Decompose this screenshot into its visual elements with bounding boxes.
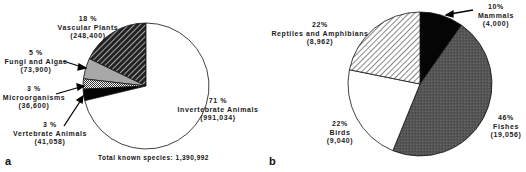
label-vertebrate-animals: 3 % Vertebrate Animals (41,058)	[10, 121, 90, 147]
panel-letter-b: b	[269, 155, 276, 167]
label-reptiles-amphibians: 22% Reptiles and Amphibians (8,962)	[269, 21, 371, 47]
label-fungi-algae: 5 % Fungi and Algae (73,900)	[4, 49, 68, 75]
label-invertebrate-animals: 71 % Invertebrate Animals (991,034)	[176, 97, 260, 123]
label-birds: 22% Birds (9,040)	[317, 120, 363, 146]
pie-chart-a: 18 % Vascular Plants (248,400) 5 % Fungi…	[0, 0, 263, 172]
label-microorganisms: 3 % Microorganisms (36,600)	[2, 85, 66, 111]
panel-letter-a: a	[5, 155, 11, 167]
total-species-label: Total known species: 1,390,992	[98, 154, 209, 161]
pie-chart-b: 10% Mammals (4,000) 46% Fishes (19,056) …	[263, 0, 526, 172]
label-vascular-plants: 18 % Vascular Plants (248,400)	[48, 15, 128, 41]
label-fishes: 46% Fishes (19,056)	[485, 114, 526, 140]
label-mammals: 10% Mammals (4,000)	[468, 3, 524, 29]
